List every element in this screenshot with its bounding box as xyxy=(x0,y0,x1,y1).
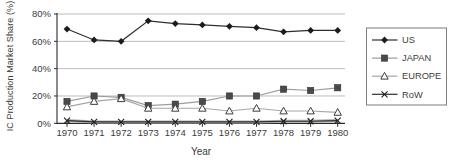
y-tick-label: 20% xyxy=(32,90,52,101)
legend-us-label: US xyxy=(402,35,415,45)
japan-marker xyxy=(308,87,314,93)
x-axis-title: Year xyxy=(191,146,211,157)
japan-marker xyxy=(381,55,387,61)
y-tick-label: 80% xyxy=(32,8,52,19)
x-tick-label: 1971 xyxy=(83,127,104,138)
legend-japan-label: JAPAN xyxy=(402,53,431,63)
x-tick-label: 1978 xyxy=(273,127,294,138)
europe-marker xyxy=(253,104,260,111)
x-tick-label: 1979 xyxy=(300,127,321,138)
x-tick-label: 1973 xyxy=(138,127,159,138)
plot-area: 0%20%40%60%80%19701971197219731974197519… xyxy=(0,0,454,164)
x-tick-label: 1975 xyxy=(192,127,213,138)
x-tick-label: 1972 xyxy=(111,127,132,138)
japan-marker xyxy=(226,93,232,99)
us-marker xyxy=(91,37,98,44)
us-marker xyxy=(307,27,314,34)
x-tick-label: 1977 xyxy=(246,127,267,138)
legend-row-label: RoW xyxy=(402,90,423,100)
x-tick-label: 1976 xyxy=(219,127,240,138)
y-tick-label: 40% xyxy=(32,63,52,74)
x-tick-label: 1974 xyxy=(165,127,186,138)
japan-marker xyxy=(335,85,341,91)
ic-market-share-figure: 0%20%40%60%80%19701971197219731974197519… xyxy=(0,0,454,164)
x-tick-label: 1980 xyxy=(327,127,348,138)
x-tick-label: 1970 xyxy=(56,127,77,138)
japan-marker xyxy=(280,86,286,92)
us-marker xyxy=(199,22,206,29)
japan-marker xyxy=(253,93,259,99)
us-marker xyxy=(226,23,233,30)
legend-europe-label: EUROPE xyxy=(402,71,441,81)
us-marker xyxy=(172,20,179,27)
us-marker xyxy=(280,28,287,35)
us-marker xyxy=(64,26,71,33)
y-tick-label: 0% xyxy=(37,118,51,129)
y-tick-label: 60% xyxy=(32,36,52,47)
us-marker xyxy=(253,24,260,31)
y-axis-title: IC Production Market Share (%) xyxy=(5,1,15,132)
us-marker xyxy=(334,27,341,34)
